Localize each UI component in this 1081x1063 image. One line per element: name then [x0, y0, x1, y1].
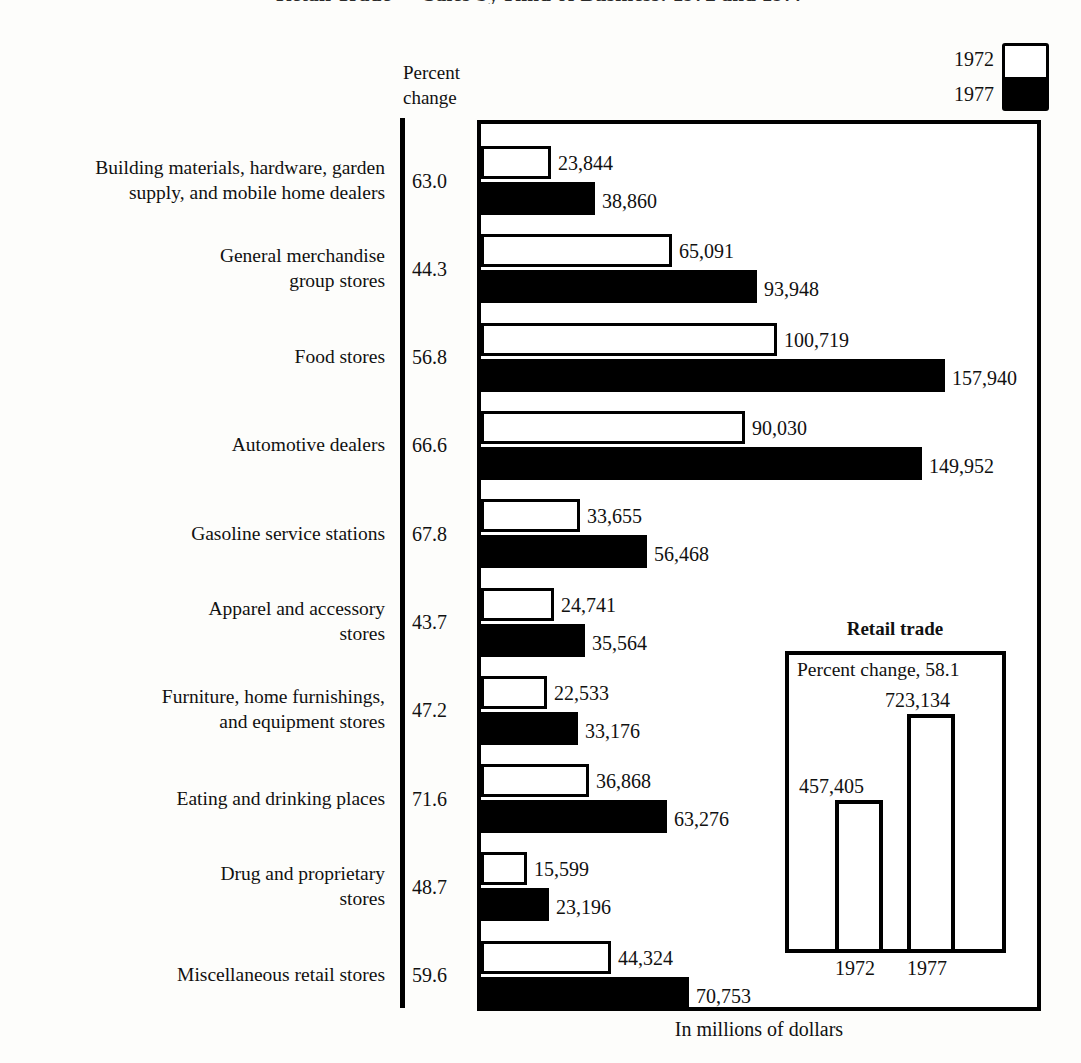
bar-value-label-1977: 33,176	[585, 721, 640, 741]
bar-1972	[481, 411, 745, 444]
category-label: Automotive dealers	[10, 432, 385, 457]
bar-1977	[481, 888, 549, 921]
bar-1977	[481, 624, 585, 657]
bar-value-label-1977: 23,196	[556, 897, 611, 917]
bar-value-label-1972: 65,091	[679, 241, 734, 261]
inset-bar-1972	[835, 800, 883, 949]
category-label: Furniture, home furnishings,and equipmen…	[10, 684, 385, 734]
bar-value-label-1977: 93,948	[764, 279, 819, 299]
category-label: General merchandisegroup stores	[10, 243, 385, 293]
inset-title: Retail trade	[785, 618, 1005, 640]
percent-change-value: 47.2	[412, 698, 476, 722]
category-label: Apparel and accessorystores	[10, 596, 385, 646]
category-label-line1: Furniture, home furnishings,	[10, 684, 385, 709]
category-label: Food stores	[10, 344, 385, 369]
bar-1977	[481, 447, 922, 480]
bar-1972	[481, 941, 611, 974]
bar-value-label-1972: 23,844	[558, 153, 613, 173]
category-label-line1: General merchandise	[10, 243, 385, 268]
category-label: Miscellaneous retail stores	[10, 962, 385, 987]
bar-1972	[481, 676, 547, 709]
bar-1972	[481, 588, 554, 621]
bar-value-label-1977: 149,952	[929, 456, 994, 476]
inset-retail-trade-chart: Percent change, 58.1 457,405723,134	[785, 651, 1006, 953]
bar-value-label-1977: 38,860	[602, 191, 657, 211]
bar-1972	[481, 234, 672, 267]
bar-1977	[481, 977, 689, 1010]
percent-change-value: 43.7	[412, 610, 476, 634]
category-label-line1: Apparel and accessory	[10, 596, 385, 621]
category-label-line1: Automotive dealers	[10, 432, 385, 457]
percent-change-value: 44.3	[412, 257, 476, 281]
inset-x-axis-label: 1977	[891, 957, 963, 979]
category-label-line1: Food stores	[10, 344, 385, 369]
bar-value-label-1972: 100,719	[784, 330, 849, 350]
bar-value-label-1972: 33,655	[587, 506, 642, 526]
bar-1977	[481, 535, 647, 568]
bar-value-label-1972: 36,868	[596, 771, 651, 791]
bar-value-label-1972: 22,533	[554, 683, 609, 703]
category-label: Building materials, hardware, gardensupp…	[10, 155, 385, 205]
inset-bar-1977	[907, 714, 955, 949]
category-label: Drug and proprietarystores	[10, 861, 385, 911]
bar-value-label-1972: 90,030	[752, 418, 807, 438]
bar-1977	[481, 712, 578, 745]
bar-1977	[481, 270, 757, 303]
bar-value-label-1977: 63,276	[674, 809, 729, 829]
inset-bar-value-label: 457,405	[799, 776, 864, 796]
percent-change-value: 67.8	[412, 522, 476, 546]
category-label-line2: group stores	[10, 268, 385, 293]
bar-1972	[481, 499, 580, 532]
bar-1972	[481, 323, 777, 356]
category-label-line1: Miscellaneous retail stores	[10, 962, 385, 987]
percent-change-value: 59.6	[412, 963, 476, 987]
category-label-line1: Drug and proprietary	[10, 861, 385, 886]
inset-x-axis-label: 1972	[819, 957, 891, 979]
bar-value-label-1972: 44,324	[618, 948, 673, 968]
bar-value-label-1977: 35,564	[592, 633, 647, 653]
category-label-line2: stores	[10, 621, 385, 646]
bar-value-label-1977: 157,940	[952, 368, 1017, 388]
percent-change-value: 56.8	[412, 345, 476, 369]
bar-1972	[481, 146, 551, 179]
bar-value-label-1972: 24,741	[561, 595, 616, 615]
category-label-line2: and equipment stores	[10, 709, 385, 734]
category-label-line2: stores	[10, 886, 385, 911]
percent-change-value: 71.6	[412, 787, 476, 811]
category-label-line1: Eating and drinking places	[10, 786, 385, 811]
category-label-line1: Building materials, hardware, garden	[10, 155, 385, 180]
bar-1972	[481, 764, 589, 797]
bar-1977	[481, 359, 945, 392]
percent-change-value: 63.0	[412, 169, 476, 193]
chart-page: Retail Trade — Sales by Kind of Business…	[0, 0, 1081, 1063]
bar-value-label-1972: 15,599	[534, 859, 589, 879]
category-label-line2: supply, and mobile home dealers	[10, 180, 385, 205]
percent-change-value: 48.7	[412, 875, 476, 899]
axis-note: In millions of dollars	[477, 1018, 1041, 1041]
bar-1977	[481, 800, 667, 833]
bar-1972	[481, 852, 527, 885]
percent-change-value: 66.6	[412, 433, 476, 457]
inset-bar-value-label: 723,134	[885, 690, 950, 710]
category-label-line1: Gasoline service stations	[10, 521, 385, 546]
bar-1977	[481, 182, 595, 215]
category-label: Eating and drinking places	[10, 786, 385, 811]
inset-percent-change: Percent change, 58.1	[797, 658, 1002, 681]
bar-value-label-1977: 56,468	[654, 544, 709, 564]
bar-value-label-1977: 70,753	[696, 986, 751, 1006]
category-label: Gasoline service stations	[10, 521, 385, 546]
